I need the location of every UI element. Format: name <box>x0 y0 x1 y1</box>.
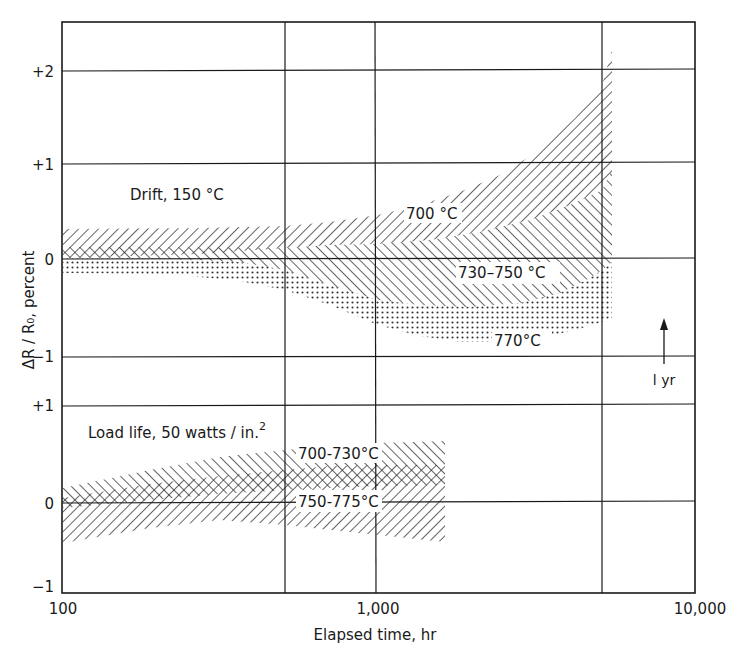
load-bands <box>63 441 445 543</box>
arrow-head-icon <box>660 318 668 330</box>
load-life-title-sup: 2 <box>259 420 266 433</box>
ytick-upper-plus1: +1 <box>32 156 54 174</box>
ytick-lower-minus1: −1 <box>32 578 54 596</box>
chart: +2 +1 0 −1 +1 0 −1 100 1,000 10,000 Elap… <box>0 0 739 653</box>
ytick-upper-plus2: +2 <box>32 63 54 81</box>
load-life-title: Load life, 50 watts / in.2 <box>88 420 266 442</box>
one-year-annotation: l yr <box>653 318 676 388</box>
label-750-775c: 750-775°C <box>298 493 379 511</box>
ytick-lower-zero: 0 <box>44 495 54 513</box>
label-770c: 770°C <box>494 332 541 350</box>
xtick-1000: 1,000 <box>357 600 400 618</box>
x-axis-title: Elapsed time, hr <box>314 626 438 644</box>
label-700-730c: 700-730°C <box>298 445 379 463</box>
xtick-10000: 10,000 <box>674 600 727 618</box>
load-life-title-text: Load life, 50 watts / in. <box>88 424 259 442</box>
drift-title: Drift, 150 °C <box>130 186 224 204</box>
xtick-100: 100 <box>49 600 78 618</box>
one-year-label: l yr <box>653 372 676 388</box>
label-730-750c: 730–750 °C <box>458 264 546 282</box>
x-tick-labels: 100 1,000 10,000 <box>49 600 727 618</box>
ytick-upper-zero: 0 <box>44 251 54 269</box>
label-700c: 700 °C <box>406 205 457 223</box>
y-axis-title: ΔR / R₀, percent <box>20 251 38 370</box>
ytick-lower-plus1: +1 <box>32 397 54 415</box>
